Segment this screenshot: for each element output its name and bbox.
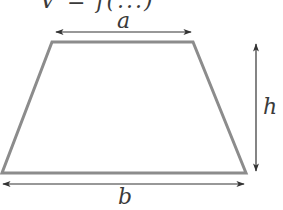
label-height-h: h xyxy=(263,96,277,118)
label-top-side-a: a xyxy=(117,10,130,32)
label-bottom-side-b: b xyxy=(118,186,132,208)
cutoff-header-text: V = f(...) xyxy=(40,0,155,13)
trapezoid-diagram: V = f(...) a b h xyxy=(0,0,283,210)
trapezoid-shape xyxy=(2,42,246,173)
diagram-svg xyxy=(0,0,283,210)
